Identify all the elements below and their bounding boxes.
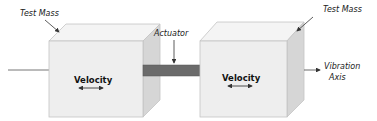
diagram-canvas: Test Mass Test Mass Actuator Vibration A… bbox=[0, 0, 377, 121]
actuator-bar bbox=[143, 65, 201, 76]
vibration-axis-label-line1: Vibration bbox=[324, 62, 360, 71]
vibration-axis-label-line2: Axis bbox=[328, 73, 346, 82]
actuator-label: Actuator bbox=[153, 29, 189, 38]
left-test-mass-pointer-icon bbox=[45, 20, 59, 32]
right-test-mass-label: Test Mass bbox=[323, 5, 362, 14]
right-velocity-label: Velocity bbox=[222, 73, 261, 83]
left-test-mass-label: Test Mass bbox=[20, 9, 59, 18]
left-velocity-label: Velocity bbox=[74, 75, 113, 85]
right-test-mass-cube bbox=[200, 22, 304, 117]
